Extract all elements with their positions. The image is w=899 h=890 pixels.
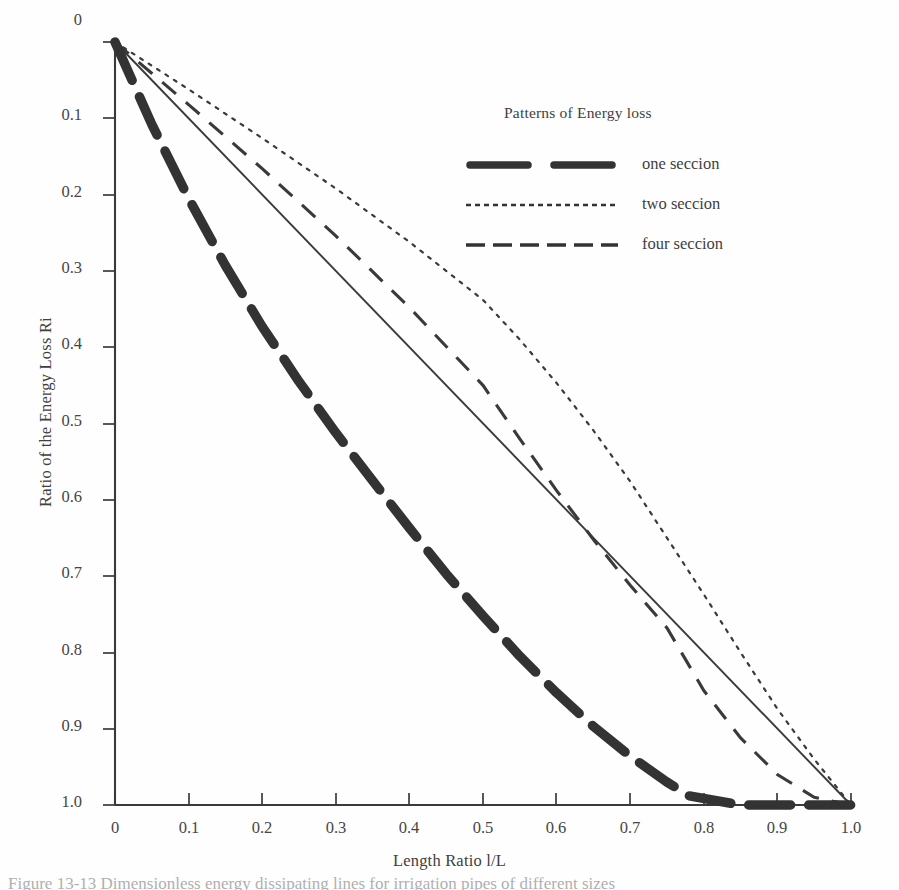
legend-swatch-fine-dotted-icon [466, 194, 626, 214]
legend-title: Patterns of Energy loss [504, 104, 796, 122]
x-tick-label-1.0: 1.0 [821, 818, 881, 838]
x-tick-label-0.7: 0.7 [600, 818, 660, 838]
y-axis-ticks [103, 42, 115, 805]
x-tick-label-0.8: 0.8 [674, 818, 734, 838]
y-tick-label-0.1: 0.1 [22, 105, 82, 125]
x-tick-label-0.5: 0.5 [453, 818, 513, 838]
legend-swatch-thick-long-dash-icon [466, 154, 626, 174]
x-tick-label-0.2: 0.2 [232, 818, 292, 838]
y-tick-label-1.0: 1.0 [22, 792, 82, 812]
y-tick-label-0.7: 0.7 [22, 563, 82, 583]
y-axis-title: Ratio of the Energy Loss Ri [36, 262, 56, 562]
y-tick-label-0.8: 0.8 [22, 640, 82, 660]
x-tick-label-0.9: 0.9 [747, 818, 807, 838]
legend-label-one-seccion: one seccion [626, 154, 719, 174]
legend-item-two-seccion: two seccion [466, 184, 796, 224]
x-axis-ticks [115, 793, 851, 805]
x-tick-label-0.1: 0.1 [159, 818, 219, 838]
x-tick-label-0.6: 0.6 [526, 818, 586, 838]
x-tick-label-0: 0 [85, 818, 145, 838]
chart-legend: Patterns of Energy loss one seccion two … [466, 104, 796, 264]
figure-caption: Figure 13-13 Dimensionless energy dissip… [0, 874, 899, 890]
figure-root: 0 0.1 0.2 0.3 0.4 0.5 0.6 0.7 0.8 0.9 1.… [0, 0, 899, 890]
x-tick-label-0.3: 0.3 [306, 818, 366, 838]
legend-label-four-seccion: four seccion [626, 234, 723, 254]
y-tick-label-0.9: 0.9 [22, 716, 82, 736]
legend-item-four-seccion: four seccion [466, 224, 796, 264]
x-tick-label-0.4: 0.4 [379, 818, 439, 838]
legend-label-two-seccion: two seccion [626, 194, 720, 214]
x-axis-title: Length Ratio l/L [0, 851, 899, 871]
y-tick-label-0: 0 [22, 10, 82, 30]
legend-swatch-medium-dash-icon [466, 234, 626, 254]
y-tick-label-0.2: 0.2 [22, 182, 82, 202]
legend-item-one-seccion: one seccion [466, 144, 796, 184]
